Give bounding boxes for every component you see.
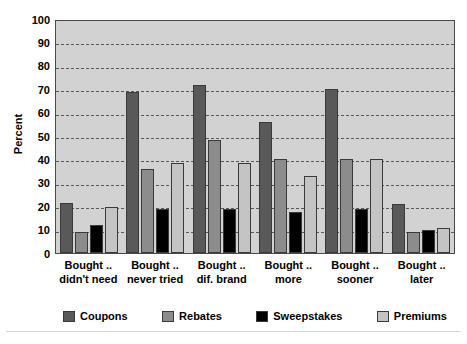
x-tick-label-3: Bought ..more [255,258,322,294]
bar-group [56,21,122,253]
bar-premiums-1[interactable] [171,163,184,253]
legend-item-coupons[interactable]: Coupons [63,310,128,322]
bar-coupons-0[interactable] [60,203,73,253]
bar-rebates-4[interactable] [340,159,353,253]
legend-item-rebates[interactable]: Rebates [162,310,222,322]
bar-sweepstakes-0[interactable] [90,225,103,253]
bar-premiums-0[interactable] [105,207,118,253]
y-tick-label-50: 50 [16,132,50,143]
bar-premiums-2[interactable] [238,163,251,253]
x-tick-label-1: Bought ..never tried [122,258,189,294]
legend-label-premiums: Premiums [394,310,447,322]
bar-rebates-1[interactable] [141,169,154,253]
legend-label-coupons: Coupons [80,310,128,322]
y-tick-label-100: 100 [16,15,50,26]
bar-chart-figure: Percent 1009080706050403020100 Bought ..… [0,0,467,344]
y-axis-tick-labels: 1009080706050403020100 [16,14,50,254]
bar-group [255,21,321,253]
y-tick-label-20: 20 [16,202,50,213]
legend-swatch-coupons [63,311,75,322]
bar-group [189,21,255,253]
x-tick-label-2: Bought ..dif. brand [188,258,255,294]
bar-premiums-4[interactable] [370,159,383,253]
bar-premiums-3[interactable] [304,176,317,253]
bar-rebates-5[interactable] [407,232,420,253]
x-tick-label-0: Bought ..didn't need [55,258,122,294]
legend-swatch-sweepstakes [256,311,268,322]
bar-sweepstakes-5[interactable] [422,230,435,253]
legend-item-sweepstakes[interactable]: Sweepstakes [256,310,342,322]
y-tick-label-80: 80 [16,61,50,72]
bar-rebates-0[interactable] [75,232,88,253]
bar-group [388,21,454,253]
plot-area [55,20,455,254]
bar-sweepstakes-1[interactable] [156,209,169,253]
x-tick-label-5: Bought ..later [388,258,455,294]
y-tick-label-70: 70 [16,85,50,96]
bar-premiums-5[interactable] [437,228,450,253]
bar-coupons-4[interactable] [325,89,338,253]
y-tick-label-60: 60 [16,108,50,119]
y-tick-label-0: 0 [16,249,50,260]
bottom-divider [6,331,461,332]
bar-coupons-1[interactable] [126,92,139,253]
legend-swatch-premiums [377,311,389,322]
y-tick-label-30: 30 [16,178,50,189]
y-tick-label-90: 90 [16,38,50,49]
bar-sweepstakes-4[interactable] [355,209,368,253]
bars-container [56,21,454,253]
x-axis-tick-labels: Bought ..didn't needBought ..never tried… [55,258,455,294]
y-tick-label-10: 10 [16,225,50,236]
bar-coupons-3[interactable] [259,122,272,253]
bar-sweepstakes-2[interactable] [223,209,236,253]
x-tick-label-4: Bought ..sooner [322,258,389,294]
y-tick-label-40: 40 [16,155,50,166]
legend-label-rebates: Rebates [179,310,222,322]
bar-group [321,21,387,253]
legend-label-sweepstakes: Sweepstakes [273,310,342,322]
bar-rebates-2[interactable] [208,140,221,253]
bar-sweepstakes-3[interactable] [289,212,302,253]
chart-legend: CouponsRebatesSweepstakesPremiums [55,306,455,326]
bar-coupons-5[interactable] [392,204,405,253]
bar-rebates-3[interactable] [274,159,287,253]
bar-coupons-2[interactable] [193,85,206,253]
bar-group [122,21,188,253]
legend-swatch-rebates [162,311,174,322]
legend-item-premiums[interactable]: Premiums [377,310,447,322]
